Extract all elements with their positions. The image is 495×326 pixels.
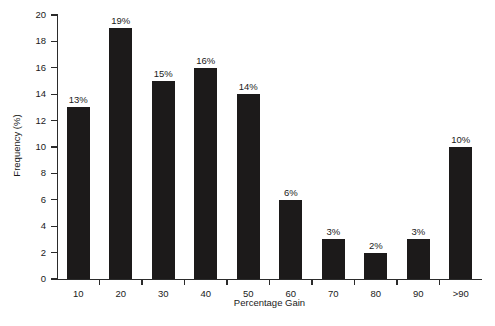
bar-value-label: 2% bbox=[355, 240, 397, 251]
y-axis-tick-label: 16 bbox=[14, 63, 46, 73]
bar bbox=[279, 200, 302, 279]
y-axis-tick-label-text: 2 bbox=[16, 248, 46, 258]
x-axis-tick bbox=[354, 280, 355, 285]
bar-value-label: 10% bbox=[440, 134, 482, 145]
y-axis-tick bbox=[51, 146, 57, 147]
bar bbox=[449, 147, 472, 279]
bar bbox=[152, 81, 175, 279]
y-axis-tick-label: 2 bbox=[14, 248, 46, 258]
y-axis-tick-label: 20 bbox=[14, 10, 46, 20]
bar-value-label: 19% bbox=[100, 15, 142, 26]
x-axis-tick bbox=[439, 280, 440, 285]
bar-value-label: 3% bbox=[312, 226, 354, 237]
y-axis-title: Frequency (%) bbox=[11, 91, 22, 201]
bar-value-label: 3% bbox=[397, 226, 439, 237]
y-axis-tick-label-text: 0 bbox=[16, 274, 46, 284]
y-axis-tick-label-text: 18 bbox=[16, 36, 46, 46]
y-axis-tick bbox=[51, 14, 57, 15]
x-axis-tick bbox=[396, 280, 397, 285]
y-axis-tick bbox=[51, 41, 57, 42]
x-axis-tick bbox=[269, 280, 270, 285]
x-axis-tick bbox=[184, 280, 185, 285]
x-axis-tick bbox=[311, 280, 312, 285]
bar-chart: 02468101214161820 102030405060708090>90 … bbox=[0, 0, 495, 326]
bar-value-label: 14% bbox=[227, 81, 269, 92]
bar-value-label: 6% bbox=[270, 187, 312, 198]
y-axis-tick bbox=[51, 252, 57, 253]
y-axis-tick bbox=[51, 199, 57, 200]
y-axis-tick bbox=[51, 94, 57, 95]
y-axis-tick bbox=[51, 67, 57, 68]
bar bbox=[109, 28, 132, 279]
x-axis-tick bbox=[141, 280, 142, 285]
bar-value-label: 15% bbox=[142, 68, 184, 79]
y-axis-tick bbox=[51, 120, 57, 121]
y-axis-tick-label-text: 20 bbox=[16, 10, 46, 20]
bar bbox=[407, 239, 430, 279]
bar-value-label: 16% bbox=[185, 55, 227, 66]
bar bbox=[364, 253, 387, 279]
bar bbox=[237, 94, 260, 279]
x-axis-tick bbox=[226, 280, 227, 285]
bar bbox=[322, 239, 345, 279]
y-axis-tick-label: 18 bbox=[14, 36, 46, 46]
y-axis-tick bbox=[51, 173, 57, 174]
bar bbox=[67, 107, 90, 279]
y-axis-tick bbox=[51, 278, 57, 279]
y-axis-tick-label-text: 16 bbox=[16, 63, 46, 73]
y-axis-tick-label-text: 4 bbox=[16, 221, 46, 231]
y-axis-tick-label: 0 bbox=[14, 274, 46, 284]
bar-value-label: 13% bbox=[57, 94, 99, 105]
y-axis-tick-label: 4 bbox=[14, 221, 46, 231]
y-axis-line bbox=[57, 14, 58, 280]
bar bbox=[194, 68, 217, 279]
x-axis-title: Percentage Gain bbox=[57, 297, 482, 308]
x-axis-tick bbox=[99, 280, 100, 285]
y-axis-tick bbox=[51, 226, 57, 227]
